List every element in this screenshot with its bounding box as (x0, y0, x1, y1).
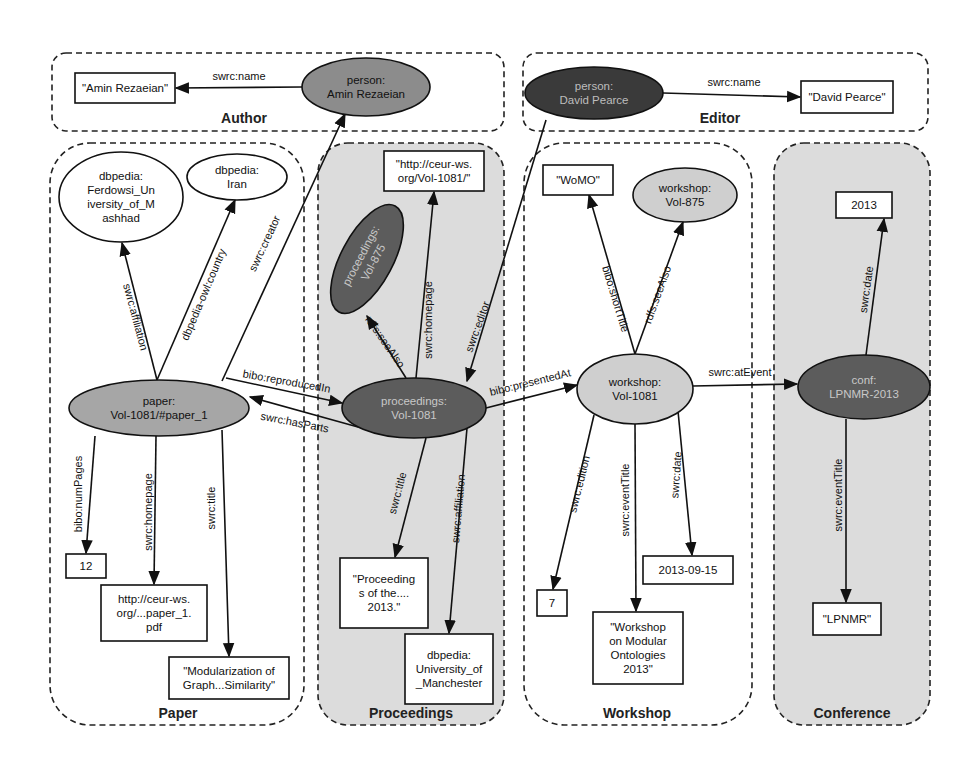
node-label-line: http://ceur-ws. (118, 593, 190, 605)
ellipse-node-shape (798, 355, 930, 419)
node-label-line: s of the.... (359, 587, 410, 599)
literal-node-shape (169, 657, 289, 699)
node-label-line: "LPNMR" (823, 613, 871, 625)
node-label-line: Vol-1081 (391, 409, 436, 421)
node-paper-homepage[interactable]: http://ceur-ws.org/...paper_1.pdf (101, 585, 207, 641)
node-label-line: Iran (227, 178, 247, 190)
edge-label: swrc:eventTitle (832, 459, 844, 532)
edge-label: swrc:title (205, 487, 217, 530)
node-label-line: ashhad (102, 212, 140, 224)
node-label-line: Ferdowsi_Un (87, 184, 155, 196)
edge-arrow (176, 87, 302, 88)
node-label-line: 2013." (368, 601, 401, 613)
node-workshop-875[interactable]: workshop:Vol-875 (633, 168, 737, 222)
edge-label: swrc:eventTitle (619, 464, 631, 537)
node-proc-1081[interactable]: proceedings:Vol-1081 (342, 378, 486, 438)
node-label-line: org/...paper_1. (117, 607, 192, 619)
ellipse-node-shape (302, 58, 430, 116)
node-label-line: "http://ceur-ws. (396, 158, 472, 170)
node-label: 2013-09-15 (659, 564, 718, 576)
node-label: "David Pearce" (808, 91, 885, 103)
node-label-line: 2013-09-15 (659, 564, 718, 576)
node-ws-date[interactable]: 2013-09-15 (643, 556, 733, 584)
group-label-proceedings: Proceedings (369, 705, 453, 721)
group-label-conference: Conference (813, 705, 890, 721)
node-label-line: workshop: (658, 182, 711, 194)
node-workshop-1081[interactable]: workshop:Vol-1081 (577, 354, 693, 424)
node-label-line: 12 (80, 560, 93, 572)
node-label-line: "Proceeding (353, 573, 415, 585)
node-label-line: paper: (143, 395, 176, 407)
edge-label: swrc:name (212, 70, 265, 82)
ellipse-node-shape (633, 168, 737, 222)
edge-arrow (635, 424, 636, 611)
node-label-line: pdf (146, 621, 163, 633)
node-label-line: org/Vol-1081/" (398, 172, 471, 184)
node-label-line: dbpedia: (215, 164, 259, 176)
node-label-line: dbpedia: (427, 649, 471, 661)
edge-label: swrc:name (707, 76, 760, 88)
group-label-workshop: Workshop (603, 705, 671, 721)
node-label-line: Vol-1081 (612, 390, 657, 402)
node-womo[interactable]: "WoMO" (543, 165, 613, 195)
node-label: "Amin Rezaeian" (82, 82, 168, 94)
group-label-paper: Paper (159, 705, 198, 721)
node-num-pages[interactable]: 12 (66, 554, 106, 578)
node-label-line: "Workshop (610, 621, 666, 633)
node-label-line: Vol-875 (665, 196, 704, 208)
node-label-line: Ontologies (611, 649, 666, 661)
literal-node-shape (384, 151, 484, 191)
edge-label: swrc:homepage (142, 473, 154, 551)
node-david-literal[interactable]: "David Pearce" (801, 81, 893, 113)
node-iran[interactable]: dbpedia:Iran (187, 154, 287, 200)
node-paper-title[interactable]: "Modularization ofGraph...Similarity" (169, 657, 289, 699)
edge-label: swrc:atEvent (709, 366, 772, 378)
node-manchester[interactable]: dbpedia:University_of_Manchester (405, 634, 493, 704)
node-label-line: workshop: (608, 376, 661, 388)
group-conference: Conference (774, 143, 930, 725)
node-label-line: 2013" (623, 663, 653, 675)
node-edition[interactable]: 7 (537, 590, 567, 616)
node-label-line: "David Pearce" (808, 91, 885, 103)
node-label-line: "Amin Rezaeian" (82, 82, 168, 94)
node-lpnmr[interactable]: "LPNMR" (813, 603, 881, 635)
node-label-line: Vol-1081/#paper_1 (110, 409, 207, 421)
node-label-line: person: (347, 74, 385, 86)
ellipse-node-shape (525, 67, 663, 119)
node-paper[interactable]: paper:Vol-1081/#paper_1 (69, 380, 249, 436)
node-label-line: conf: (852, 374, 877, 386)
ellipse-node-shape (187, 154, 287, 200)
node-label-line: on Modular (609, 635, 667, 647)
node-label-line: "WoMO" (556, 174, 600, 186)
group-box-conference (774, 143, 930, 725)
rdf-graph-diagram: AuthorEditorPaperProceedingsWorkshopConf… (0, 0, 972, 763)
node-conf[interactable]: conf:LPNMR-2013 (798, 355, 930, 419)
node-ferdowsi[interactable]: dbpedia:Ferdowsi_University_of_Mashhad (59, 152, 183, 242)
node-label-line: dbpedia: (99, 170, 143, 182)
group-label-author: Author (221, 110, 267, 126)
node-person-david[interactable]: person:David Pearce (525, 67, 663, 119)
node-amin-literal[interactable]: "Amin Rezaeian" (75, 73, 175, 103)
node-conf-year[interactable]: 2013 (836, 192, 892, 218)
edge-label: swrc:homepage (422, 281, 434, 359)
node-label: 7 (549, 597, 555, 609)
node-proc-title[interactable]: "Proceedings of the....2013." (340, 558, 428, 628)
node-label-line: "Modularization of (183, 665, 275, 677)
node-label-line: David Pearce (559, 94, 628, 106)
ellipse-node-shape (577, 354, 693, 424)
node-label-line: LPNMR-2013 (829, 388, 899, 400)
node-label-line: University_of (416, 663, 483, 675)
node-label-line: 2013 (851, 199, 877, 211)
ellipse-node-shape (59, 152, 183, 242)
node-label-line: Amin Rezaeian (327, 88, 405, 100)
node-label-line: Graph...Similarity" (183, 679, 275, 691)
node-person-amin[interactable]: person:Amin Rezaeian (302, 58, 430, 116)
node-label: 12 (80, 560, 93, 572)
node-label-line: _Manchester (415, 677, 483, 689)
node-label: 2013 (851, 199, 877, 211)
ellipse-node-shape (69, 380, 249, 436)
group-label-editor: Editor (700, 110, 741, 126)
node-ws-title[interactable]: "Workshopon ModularOntologies2013" (593, 612, 683, 684)
node-proc-homepage[interactable]: "http://ceur-ws.org/Vol-1081/" (384, 151, 484, 191)
ellipse-node-shape (342, 378, 486, 438)
